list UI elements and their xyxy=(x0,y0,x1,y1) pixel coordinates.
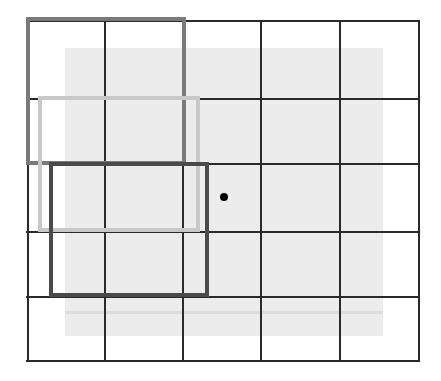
grid-vertical-line xyxy=(339,20,341,362)
grid-horizontal-line xyxy=(26,360,420,362)
point-marker xyxy=(220,193,228,201)
background-stripe xyxy=(65,311,383,314)
bounding-box-3 xyxy=(49,162,209,297)
grid-vertical-line xyxy=(418,20,420,362)
grid-vertical-line xyxy=(260,20,262,362)
